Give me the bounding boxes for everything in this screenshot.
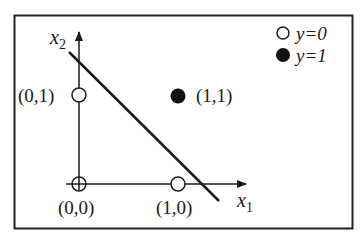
label-1-1: (1,1) <box>196 85 232 107</box>
legend-open-circle-icon <box>277 27 289 39</box>
point-0-1 <box>72 88 86 102</box>
x1-axis-label: x1 <box>236 189 253 215</box>
point-1-1 <box>171 89 186 104</box>
legend-filled-circle-icon <box>276 48 290 62</box>
label-0-0: (0,0) <box>58 197 94 219</box>
decision-boundary-line <box>69 52 219 201</box>
x2-axis-label: x2 <box>49 26 66 52</box>
diagram-canvas: (0,1) (1,1) (0,0) (1,0) x2 x1 y=0 y=1 <box>0 0 360 239</box>
legend-label-y1: y=1 <box>294 45 327 66</box>
label-0-1: (0,1) <box>18 85 54 107</box>
legend-label-y0: y=0 <box>294 23 327 44</box>
legend: y=0 y=1 <box>276 23 327 66</box>
label-1-0: (1,0) <box>156 197 192 219</box>
point-1-0 <box>171 177 185 191</box>
